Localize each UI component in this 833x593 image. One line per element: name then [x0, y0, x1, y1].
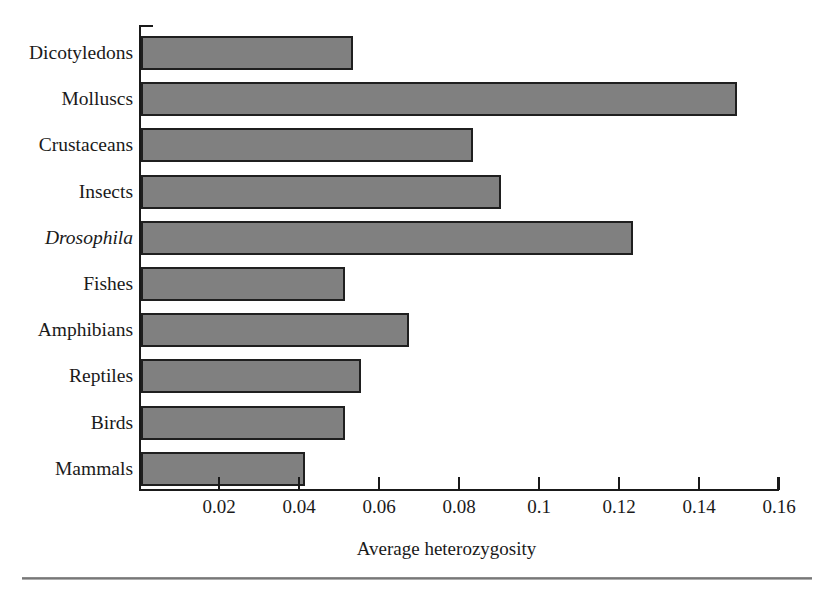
figure-bottom-rule	[22, 577, 812, 580]
category-label: Drosophila	[0, 227, 133, 249]
x-tick-label: 0.08	[442, 496, 475, 518]
category-label: Insects	[0, 181, 133, 203]
category-label: Dicotyledons	[0, 42, 133, 64]
bar	[141, 359, 361, 393]
bar	[141, 406, 345, 440]
x-tick-label: 0.14	[682, 496, 715, 518]
x-tick-mark	[778, 477, 780, 490]
category-label: Birds	[0, 412, 133, 434]
x-tick-label: 0.06	[362, 496, 395, 518]
x-tick-label: 0.04	[282, 496, 315, 518]
category-label: Fishes	[0, 273, 133, 295]
x-tick-mark	[618, 477, 620, 490]
bar	[141, 128, 473, 162]
category-label: Mammals	[0, 458, 133, 480]
x-tick-mark	[458, 477, 460, 490]
bar	[141, 82, 737, 116]
chart-figure: DicotyledonsMolluscsCrustaceansInsectsDr…	[0, 0, 833, 593]
x-tick-label: 0.16	[762, 496, 795, 518]
x-tick-mark	[378, 477, 380, 490]
category-label: Reptiles	[0, 365, 133, 387]
bar	[141, 452, 305, 486]
bar	[141, 36, 353, 70]
y-axis-top-tick	[139, 25, 153, 27]
x-tick-label: 0.1	[527, 496, 551, 518]
x-tick-mark	[538, 477, 540, 490]
x-tick-mark	[698, 477, 700, 490]
category-label: Amphibians	[0, 319, 133, 341]
x-tick-mark	[298, 477, 300, 490]
category-label: Crustaceans	[0, 134, 133, 156]
x-axis-title: Average heterozygosity	[0, 538, 833, 560]
bar	[141, 313, 409, 347]
bar	[141, 175, 501, 209]
x-tick-label: 0.02	[202, 496, 235, 518]
category-label: Molluscs	[0, 88, 133, 110]
bar	[141, 221, 633, 255]
bar	[141, 267, 345, 301]
x-tick-mark	[218, 477, 220, 490]
x-tick-label: 0.12	[602, 496, 635, 518]
plot-area: DicotyledonsMolluscsCrustaceansInsectsDr…	[0, 0, 833, 593]
